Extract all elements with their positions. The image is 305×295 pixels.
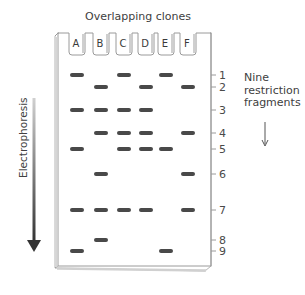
fragment-scale: 123456789	[211, 33, 226, 266]
note-line-1: Nine	[244, 72, 301, 85]
band-lane-b-fragment-2	[94, 85, 108, 89]
note-line-3: fragments	[244, 97, 301, 110]
band-lane-e-fragment-9	[159, 249, 173, 253]
band-lane-c-fragment-4	[117, 131, 131, 135]
band-lane-b-fragment-7	[94, 208, 108, 212]
band-lane-f-fragment-6	[181, 172, 195, 176]
fragments-arrow-icon	[262, 122, 268, 146]
fragments-note: Nine restriction fragments	[244, 72, 301, 110]
band-lane-e-fragment-5	[159, 147, 173, 151]
band-lane-c-fragment-7	[117, 208, 131, 212]
fragment-label-3: 3	[219, 104, 226, 117]
well-f: F	[184, 38, 190, 49]
band-lane-a-fragment-1	[70, 73, 84, 77]
well-e: E	[162, 38, 168, 49]
band-lane-a-fragment-5	[70, 147, 84, 151]
lane-label-b: B	[97, 38, 104, 49]
band-lane-c-fragment-1	[117, 73, 131, 77]
lane-label-c: C	[120, 38, 127, 49]
band-lane-c-fragment-3	[117, 108, 131, 112]
band-lane-b-fragment-8	[94, 238, 108, 242]
fragment-label-2: 2	[219, 81, 226, 94]
electrophoresis-label: Electrophoresis	[17, 97, 29, 178]
band-lane-b-fragment-6	[94, 172, 108, 176]
fragment-label-6: 6	[219, 168, 226, 181]
band-lane-b-fragment-4	[94, 131, 108, 135]
lane-label-d: D	[141, 38, 149, 49]
lane-label-e: E	[162, 38, 168, 49]
gel-body	[55, 33, 211, 271]
electrophoresis-arrow	[27, 98, 41, 252]
fragment-label-4: 4	[219, 127, 226, 140]
fragment-label-7: 7	[219, 204, 226, 217]
fragment-label-5: 5	[219, 143, 226, 156]
fragment-label-9: 9	[219, 245, 226, 258]
well-c: C	[120, 38, 127, 49]
well-b: B	[97, 38, 104, 49]
band-lane-d-fragment-5	[139, 147, 153, 151]
band-lane-a-fragment-9	[70, 249, 84, 253]
lane-label-a: A	[73, 38, 80, 49]
band-lane-a-fragment-7	[70, 208, 84, 212]
band-lane-d-fragment-2	[139, 85, 153, 89]
band-lane-f-fragment-7	[181, 208, 195, 212]
band-lane-b-fragment-3	[94, 108, 108, 112]
band-lane-a-fragment-3	[70, 108, 84, 112]
band-lane-d-fragment-3	[139, 108, 153, 112]
band-lane-d-fragment-7	[139, 208, 153, 212]
band-lane-f-fragment-2	[181, 85, 195, 89]
well-a: A	[73, 38, 80, 49]
band-lane-e-fragment-1	[159, 73, 173, 77]
gel-diagram: ABCDEF 123456789 Electrophoresis	[0, 0, 305, 295]
well-d: D	[141, 38, 149, 49]
band-lane-d-fragment-4	[139, 131, 153, 135]
band-lane-c-fragment-5	[117, 147, 131, 151]
band-lane-f-fragment-4	[181, 131, 195, 135]
lane-label-f: F	[184, 38, 190, 49]
